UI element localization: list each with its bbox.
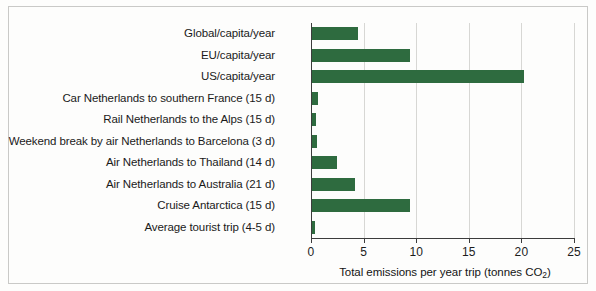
- bar-car-netherlands-southern-france: [312, 92, 318, 105]
- x-axis-title: Total emissions per year trip (tonnes CO…: [311, 266, 579, 280]
- bar-cruise-antarctica: [312, 199, 410, 212]
- x-tick-5: [364, 238, 365, 243]
- bar-row: Car Netherlands to southern France (15 d…: [311, 88, 574, 110]
- bar-us-capita-year: [312, 70, 524, 83]
- bar-row: Air Netherlands to Thailand (14 d): [311, 152, 574, 174]
- x-tick-0: [311, 238, 312, 243]
- category-label: EU/capita/year: [201, 49, 275, 61]
- bar-row: Weekend break by air Netherlands to Barc…: [311, 131, 574, 153]
- x-tick-label-20: 20: [501, 245, 541, 259]
- bar-rail-netherlands-alps: [312, 113, 316, 126]
- category-label: Cruise Antarctica (15 d): [157, 199, 275, 211]
- bar-global-capita-year: [312, 27, 358, 40]
- x-tick-10: [416, 238, 417, 243]
- bar-air-netherlands-australia: [312, 178, 355, 191]
- category-label: US/capita/year: [201, 70, 275, 82]
- x-tick-label-15: 15: [449, 245, 489, 259]
- plot-area: Global/capita/year EU/capita/year US/cap…: [311, 23, 574, 238]
- bar-average-tourist-trip: [312, 221, 315, 234]
- bar-row: Cruise Antarctica (15 d): [311, 195, 574, 217]
- category-label: Air Netherlands to Australia (21 d): [106, 178, 275, 190]
- category-label: Car Netherlands to southern France (15 d…: [62, 92, 275, 104]
- category-label: Air Netherlands to Thailand (14 d): [106, 156, 275, 168]
- x-tick-25: [574, 238, 575, 243]
- bar-row: Average tourist trip (4-5 d): [311, 217, 574, 239]
- x-tick-15: [469, 238, 470, 243]
- x-tick-label-5: 5: [344, 245, 384, 259]
- bar-air-netherlands-thailand: [312, 156, 337, 169]
- category-label: Weekend break by air Netherlands to Barc…: [9, 135, 275, 147]
- x-axis-title-prefix: Total emissions per year trip (tonnes CO: [339, 266, 542, 278]
- bar-row: EU/capita/year: [311, 45, 574, 67]
- figure: Global/capita/year EU/capita/year US/cap…: [0, 0, 596, 291]
- x-tick-label-25: 25: [554, 245, 594, 259]
- bar-row: Air Netherlands to Australia (21 d): [311, 174, 574, 196]
- bar-weekend-break-barcelona: [312, 135, 317, 148]
- x-axis-title-suffix: ): [547, 266, 551, 278]
- x-tick-label-0: 0: [291, 245, 331, 259]
- bar-row: US/capita/year: [311, 66, 574, 88]
- category-label: Global/capita/year: [184, 27, 275, 39]
- category-label: Average tourist trip (4-5 d): [144, 221, 275, 233]
- x-tick-label-10: 10: [396, 245, 436, 259]
- x-axis-line: [311, 238, 575, 239]
- bar-eu-capita-year: [312, 49, 410, 62]
- gridline-25: [574, 23, 575, 238]
- x-tick-20: [521, 238, 522, 243]
- y-axis-line: [311, 23, 312, 238]
- category-label: Rail Netherlands to the Alps (15 d): [103, 113, 275, 125]
- bar-row: Rail Netherlands to the Alps (15 d): [311, 109, 574, 131]
- chart-frame: Global/capita/year EU/capita/year US/cap…: [8, 6, 588, 284]
- bar-row: Global/capita/year: [311, 23, 574, 45]
